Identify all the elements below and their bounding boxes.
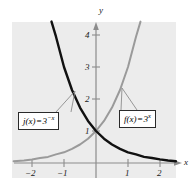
callout-f-operator: =	[137, 114, 144, 124]
y-tick-label-2: 2	[85, 95, 90, 104]
y-axis-arrowhead	[93, 22, 99, 30]
f-leader-line-left	[121, 88, 122, 110]
callout-f-label: f(x)=3x	[119, 110, 156, 128]
y-tick-label-3: 3	[85, 63, 90, 72]
callout-j-arg: (x)	[26, 116, 36, 126]
x-tick-label--2: −2	[25, 169, 36, 178]
callout-f-exponent: x	[148, 112, 151, 119]
j-curve	[52, 22, 177, 162]
y-tick-label-1: 1	[85, 127, 90, 136]
x-tick-label--1: −1	[57, 169, 68, 178]
callout-j-label: j(x)=3−x	[18, 112, 59, 130]
y-tick-label-4: 4	[85, 31, 90, 40]
callout-f-arg: (x)	[127, 114, 137, 124]
j-leader-line-left	[56, 91, 75, 112]
x-axis-label: x	[184, 158, 188, 167]
f-leader-line-right	[122, 88, 137, 110]
callout-j-exponent: −x	[47, 114, 54, 121]
graph-canvas	[0, 0, 195, 191]
exponential-graph-figure: 1 2 3 4 −2 −1 1 2 y x j(x)=3−x f(x)=3x	[0, 0, 195, 191]
y-axis-label: y	[99, 6, 103, 15]
x-tick-label-2: 2	[157, 169, 162, 178]
x-tick-label-1: 1	[125, 169, 130, 178]
callout-j-operator: =	[36, 116, 43, 126]
